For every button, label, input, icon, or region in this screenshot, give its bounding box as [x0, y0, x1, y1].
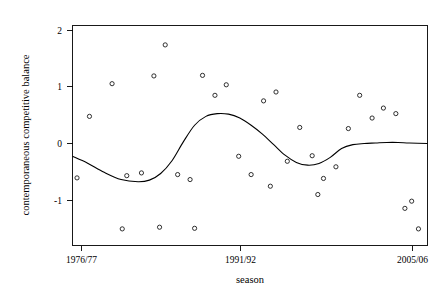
x-tick-label-2005: 2005/06: [397, 255, 428, 265]
loess-smooth-curve: [73, 113, 428, 181]
data-point: [370, 116, 374, 120]
data-point: [394, 112, 398, 116]
data-point: [410, 199, 414, 203]
data-point: [224, 83, 228, 87]
data-point: [188, 177, 192, 181]
data-point: [285, 159, 289, 163]
data-point: [193, 226, 197, 230]
data-point: [87, 114, 91, 118]
x-tick-label-1991: 1991/92: [225, 255, 256, 265]
data-point: [200, 73, 204, 77]
data-point: [120, 227, 124, 231]
y-tick-label-1: 1: [57, 82, 62, 92]
data-point: [416, 227, 420, 231]
x-tick-label-1976: 1976/77: [66, 255, 97, 265]
y-axis-title: contemporaneous competitive balance: [20, 54, 31, 215]
data-point: [268, 184, 272, 188]
data-point: [334, 165, 338, 169]
data-point: [316, 192, 320, 196]
data-point: [358, 93, 362, 97]
data-point: [213, 93, 217, 97]
data-point: [237, 154, 241, 158]
data-point: [310, 154, 314, 158]
chart-figure: 2 1 0 -1 1976/77 1991/92 2005/06 season …: [0, 0, 446, 301]
data-point: [298, 125, 302, 129]
data-point: [157, 225, 161, 229]
data-point: [403, 206, 407, 210]
data-point: [152, 74, 156, 78]
x-axis-title: season: [236, 274, 265, 285]
data-point: [249, 172, 253, 176]
y-tick-label-2: 2: [57, 26, 62, 36]
data-point: [346, 126, 350, 130]
data-points-group: [75, 43, 421, 231]
data-point: [261, 99, 265, 103]
data-point: [125, 174, 129, 178]
data-point: [176, 172, 180, 176]
data-point: [75, 176, 79, 180]
data-point: [139, 171, 143, 175]
data-point: [163, 43, 167, 47]
plot-frame: [73, 26, 428, 246]
y-tick-label-0: 0: [57, 139, 62, 149]
data-point: [321, 176, 325, 180]
data-point: [110, 82, 114, 86]
y-axis-ticks: [67, 31, 73, 201]
data-point: [274, 90, 278, 94]
data-point: [381, 106, 385, 110]
y-tick-label-neg1: -1: [54, 196, 62, 206]
scatter-plot-svg: 2 1 0 -1 1976/77 1991/92 2005/06 season …: [0, 0, 446, 301]
x-axis-ticks: [82, 246, 413, 252]
